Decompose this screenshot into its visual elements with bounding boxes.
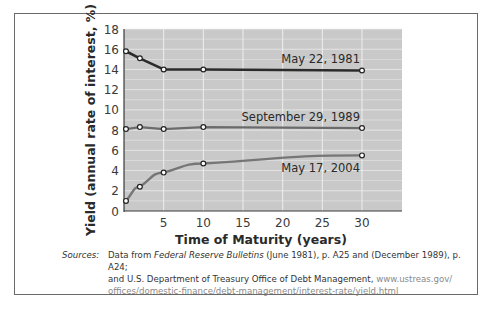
y-tick-label: 12 bbox=[104, 83, 119, 97]
y-tick-label: 14 bbox=[104, 63, 119, 77]
sources-url[interactable]: offices/domestic-finance/debt-management… bbox=[108, 286, 398, 296]
data-point bbox=[360, 126, 365, 131]
y-tick-label: 16 bbox=[104, 43, 119, 57]
y-tick-label: 10 bbox=[104, 103, 119, 117]
data-point bbox=[161, 127, 166, 132]
sources-text: and U.S. Department of Treasury Office o… bbox=[108, 274, 376, 284]
x-tick-label: 15 bbox=[235, 216, 250, 230]
data-point bbox=[360, 68, 365, 73]
y-tick-label: 2 bbox=[111, 184, 119, 198]
data-point bbox=[201, 125, 206, 130]
sources-text: Data from bbox=[108, 250, 154, 260]
data-point bbox=[137, 184, 142, 189]
x-tick-label: 5 bbox=[160, 216, 168, 230]
data-point bbox=[360, 153, 365, 158]
sources-body: Data from Federal Reserve Bulletins (Jun… bbox=[108, 249, 478, 297]
x-tick-label: 10 bbox=[196, 216, 211, 230]
data-point bbox=[161, 170, 166, 175]
data-point bbox=[124, 198, 129, 203]
x-tick-label: 30 bbox=[354, 216, 369, 230]
data-point bbox=[137, 56, 142, 61]
series-label: September 29, 1989 bbox=[242, 110, 360, 124]
data-point bbox=[201, 67, 206, 72]
sources-note: Sources:Data from Federal Reserve Bullet… bbox=[62, 249, 482, 297]
data-point bbox=[124, 127, 129, 132]
data-point bbox=[137, 125, 142, 130]
data-point bbox=[201, 161, 206, 166]
sources-url[interactable]: www.ustreas.gov/ bbox=[376, 274, 452, 284]
x-axis-title: Time of Maturity (years) bbox=[175, 232, 347, 247]
y-tick-label: 18 bbox=[104, 23, 119, 37]
sources-label: Sources: bbox=[62, 249, 108, 261]
x-tick-label: 20 bbox=[275, 216, 290, 230]
series-label: May 17, 2004 bbox=[281, 161, 360, 175]
sources-publication: Federal Reserve Bulletins bbox=[154, 250, 264, 260]
y-tick-label: 4 bbox=[111, 164, 119, 178]
data-point bbox=[124, 49, 129, 54]
y-tick-label: 8 bbox=[111, 124, 119, 138]
yield-curve-chart: 02468101214161851015202530 May 22, 1981S… bbox=[0, 0, 495, 250]
data-point bbox=[161, 67, 166, 72]
y-tick-label: 0 bbox=[111, 205, 119, 219]
y-tick-label: 6 bbox=[111, 144, 119, 158]
series-label: May 22, 1981 bbox=[281, 52, 360, 66]
y-axis-title: Yield (annual rate of interest, %) bbox=[83, 4, 98, 237]
x-tick-label: 25 bbox=[315, 216, 330, 230]
